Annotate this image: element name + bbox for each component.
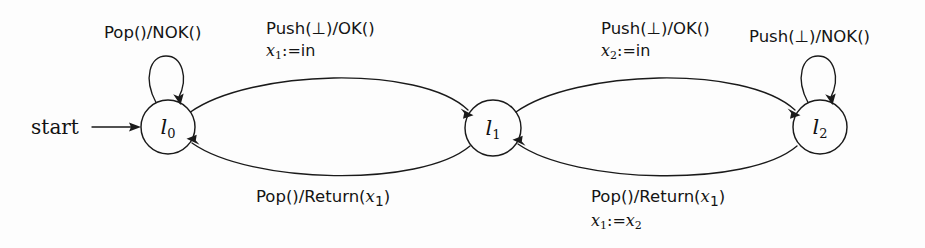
guard-var-sub: 1	[710, 193, 719, 209]
assignment-text: x1:=x2	[591, 210, 725, 233]
edge-label-l1-to-l0: Pop()/Return(x1)	[256, 186, 390, 210]
start-arrow	[92, 123, 141, 132]
assign-rhs-sub: 2	[635, 219, 642, 232]
assign-lhs-sub: 1	[600, 219, 607, 232]
edge-label-l1-to-l2: Push(⊥)/OK() x2:=in	[601, 18, 710, 63]
assignment-text: x1:=in	[266, 40, 375, 63]
guard-suffix: )	[384, 187, 390, 206]
assign-var-sub: 1	[275, 49, 282, 62]
state-letter-l1: l	[486, 116, 493, 140]
start-label: start	[31, 115, 79, 139]
state-letter-l0: l	[161, 115, 168, 139]
guard-text: Pop()/NOK()	[104, 23, 201, 42]
guard-var-sub: 1	[375, 193, 384, 209]
assign-op: :=	[282, 41, 301, 60]
assign-var-sub: 2	[610, 49, 617, 62]
state-label-l0: l0	[161, 115, 176, 141]
edge-label-self-loop-l2: Push(⊥)/NOK()	[749, 26, 870, 48]
guard-prefix: Pop()/Return(	[256, 187, 366, 206]
edge-label-l2-to-l1: Pop()/Return(x1) x1:=x2	[591, 186, 725, 234]
state-label-l2: l2	[813, 115, 828, 141]
assign-op: :=	[617, 41, 636, 60]
guard-text: Push(⊥)/OK()	[601, 19, 710, 38]
assign-var: x	[601, 41, 610, 60]
guard-var: x	[366, 187, 375, 206]
automaton-diagram: start l0 l1 l2 Pop()/NOK() Push(⊥)/OK() …	[0, 0, 925, 248]
transition-l1-to-l2	[516, 78, 801, 119]
guard-suffix: )	[719, 187, 725, 206]
assign-rhs: in	[301, 41, 316, 60]
state-letter-l2: l	[813, 115, 820, 139]
state-label-l1: l1	[486, 116, 501, 142]
guard-var: x	[701, 187, 710, 206]
assign-var: x	[266, 41, 275, 60]
guard-text: Push(⊥)/OK()	[266, 19, 375, 38]
state-index-l0: 0	[167, 126, 175, 141]
assign-rhs: in	[636, 41, 651, 60]
self-loop-l2	[801, 56, 835, 105]
transition-l1-to-l0	[187, 135, 471, 176]
guard-prefix: Pop()/Return(	[591, 187, 701, 206]
edge-label-l0-to-l1: Push(⊥)/OK() x1:=in	[266, 18, 375, 63]
assignment-text: x2:=in	[601, 40, 710, 63]
assign-lhs-var: x	[591, 211, 600, 230]
guard-text: Push(⊥)/NOK()	[749, 27, 870, 46]
transition-l0-to-l1	[191, 78, 474, 119]
edge-label-self-loop-l0: Pop()/NOK()	[104, 22, 201, 44]
state-index-l2: 2	[819, 126, 827, 141]
transition-l2-to-l1	[513, 136, 798, 176]
assign-op: :=	[607, 211, 626, 230]
assign-rhs-var: x	[626, 211, 635, 230]
state-index-l1: 1	[492, 127, 500, 142]
self-loop-l0	[149, 56, 183, 105]
